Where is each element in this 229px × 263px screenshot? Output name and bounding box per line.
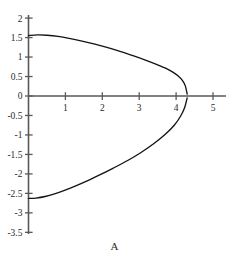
y-tick-label: -2 (15, 169, 23, 179)
y-tick-label: 0 (18, 91, 23, 101)
curve-lower-branch (29, 98, 188, 198)
curve-upper-branch (29, 35, 188, 94)
y-tick-label: -3 (15, 208, 23, 218)
x-tick-label: 5 (211, 103, 216, 113)
figure-container: 12345 21.510.50-0.5-1-1.5-2-2.5-3-3.5 A (0, 0, 229, 263)
y-tick-label: -1 (15, 130, 23, 140)
y-tick-label: 0.5 (11, 72, 23, 82)
x-tick-label: 2 (100, 103, 105, 113)
y-tick-label: -0.5 (7, 111, 22, 121)
y-tick-label: 1 (18, 52, 23, 62)
x-tick-label: 4 (174, 103, 179, 113)
y-tick-label: 1.5 (11, 33, 23, 43)
plot-canvas: 12345 21.510.50-0.5-1-1.5-2-2.5-3-3.5 (0, 0, 229, 263)
curve-group (29, 35, 188, 199)
y-tick-label: -3.5 (7, 228, 22, 238)
x-tick-label: 1 (63, 103, 68, 113)
figure-caption: A (0, 240, 229, 252)
y-tick-label: -2.5 (7, 189, 22, 199)
y-tick-label: 2 (18, 14, 23, 24)
x-tick-label: 3 (137, 103, 142, 113)
y-tick-label: -1.5 (7, 150, 22, 160)
axes-group (28, 15, 226, 234)
